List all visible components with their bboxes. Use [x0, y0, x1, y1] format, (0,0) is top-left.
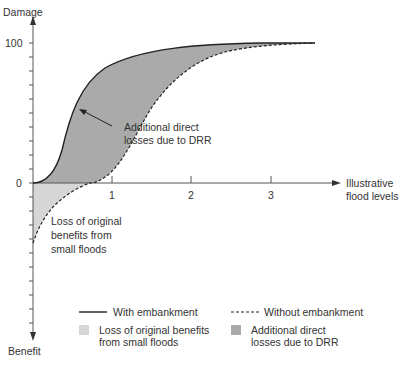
y-tick-100: 100	[5, 37, 23, 49]
legend-additional-losses: Additional direct losses due to DRR	[231, 324, 339, 348]
y-axis-label-benefit: Benefit	[8, 345, 41, 357]
legend-drr-line1: Additional direct	[251, 324, 339, 336]
annotation-loss-line1: Loss of original	[51, 215, 122, 227]
x-axis-arrow-icon	[332, 180, 341, 186]
legend-loss-of-benefits: Loss of original benefits from small flo…	[79, 324, 209, 348]
legend-loss-line1: Loss of original benefits	[99, 324, 209, 336]
y-axis-label-damage: Damage	[3, 6, 43, 18]
annotation-drr-line2: losses due to DRR	[124, 134, 212, 146]
y-axis-down-arrow-icon	[30, 332, 36, 341]
annotation-drr-line1: Additional direct	[124, 121, 199, 133]
x-tick-2: 2	[188, 189, 194, 201]
x-axis-label-line2: flood levels	[346, 190, 399, 202]
x-tick-3: 3	[268, 189, 274, 201]
y-ticks	[29, 43, 33, 323]
legend-without-embankment: Without embankment	[264, 306, 363, 318]
annotation-loss-line2: benefits from	[51, 229, 112, 241]
x-axis-label-line1: Illustrative	[346, 177, 393, 189]
legend-light-swatch	[79, 325, 89, 335]
x-tick-1: 1	[109, 189, 115, 201]
additional-losses-area	[33, 43, 315, 183]
legend-with-embankment: With embankment	[113, 306, 198, 318]
x-ticks	[112, 176, 271, 183]
annotation-loss-line3: small floods	[51, 243, 106, 255]
legend-drr-line2: losses due to DRR	[251, 336, 339, 348]
legend-loss-line2: from small floods	[99, 336, 209, 348]
legend-dark-swatch	[231, 325, 241, 335]
y-tick-0: 0	[16, 177, 22, 189]
